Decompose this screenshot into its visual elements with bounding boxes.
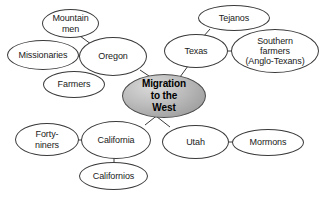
node-label: Oregon <box>96 51 129 61</box>
node-label: Southernfarmers(Anglo-Texans) <box>243 36 306 66</box>
concept-map-diagram: MountainmenMissionariesOregonFarmersTeja… <box>0 0 324 198</box>
node-label: California <box>95 135 136 145</box>
node-label: Missionaries <box>17 50 70 60</box>
node-label: Mountainmen <box>50 13 90 33</box>
node-label: Californios <box>91 171 136 181</box>
node-missionaries[interactable]: Missionaries <box>7 40 79 70</box>
node-mountain-men[interactable]: Mountainmen <box>42 9 99 38</box>
node-label: Farmers <box>56 79 93 89</box>
node-tejanos[interactable]: Tejanos <box>198 5 270 31</box>
node-oregon[interactable]: Oregon <box>79 37 147 76</box>
node-label: Forty-niners <box>33 129 61 149</box>
node-forty-niners[interactable]: Forty-niners <box>15 123 79 156</box>
node-label: Mormons <box>248 137 289 147</box>
node-label: Migrationto theWest <box>140 78 188 114</box>
node-californios[interactable]: Californios <box>79 162 148 190</box>
node-california[interactable]: California <box>81 121 151 159</box>
node-mormons[interactable]: Mormons <box>232 129 304 156</box>
node-farmers[interactable]: Farmers <box>43 71 105 98</box>
node-label: Tejanos <box>217 13 251 23</box>
node-southern-farmers[interactable]: Southernfarmers(Anglo-Texans) <box>231 29 319 73</box>
node-label: Texas <box>182 46 209 56</box>
node-label: Utah <box>184 137 207 147</box>
center-node-center[interactable]: Migrationto theWest <box>122 74 206 118</box>
node-utah[interactable]: Utah <box>162 125 229 159</box>
node-texas[interactable]: Texas <box>164 34 228 68</box>
